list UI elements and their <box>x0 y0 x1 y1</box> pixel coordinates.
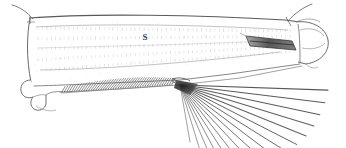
stipple-dot <box>169 36 170 37</box>
stipple-dot <box>85 68 86 69</box>
stipple-dot <box>235 80 236 81</box>
stipple-dot <box>53 68 54 69</box>
stipple-dot <box>120 25 121 26</box>
comb-seta-base <box>135 86 136 87</box>
stipple-dot <box>43 61 44 62</box>
stipple-dot <box>75 69 76 70</box>
stipple-dot <box>189 51 190 52</box>
stipple-dot <box>77 19 78 20</box>
stipple-dot <box>146 75 147 76</box>
stipple-dot <box>210 20 211 21</box>
stipple-dot <box>106 40 107 41</box>
stipple-dot <box>143 65 144 66</box>
stipple-dot <box>121 75 122 76</box>
comb-seta-base <box>132 86 133 87</box>
comb-seta-base <box>106 88 107 89</box>
stipple-dot <box>301 18 302 19</box>
stipple-dot <box>116 27 117 28</box>
stipple-dot <box>159 19 160 20</box>
stipple-dot <box>295 16 296 17</box>
stipple-dot <box>279 73 280 74</box>
stipple-dot <box>217 42 218 43</box>
stipple-dot <box>171 92 172 93</box>
stipple-dot <box>107 77 108 78</box>
stipple-dot <box>98 84 99 85</box>
stipple-dot <box>105 36 106 37</box>
stipple-dot <box>172 34 173 35</box>
stipple-dot <box>286 77 287 78</box>
stipple-dot <box>98 26 99 27</box>
stipple-dot <box>202 18 203 19</box>
stipple-dot <box>120 56 121 57</box>
stipple-dot <box>201 28 202 29</box>
stipple-dot <box>126 82 127 83</box>
comb-seta <box>155 78 160 85</box>
stipple-dot <box>63 75 64 76</box>
stipple-dot <box>217 50 218 51</box>
stipple-dot <box>280 78 281 79</box>
stipple-dot <box>186 18 187 19</box>
comb-seta-base <box>91 89 92 90</box>
stipple-dot <box>162 90 163 91</box>
stipple-dot <box>54 50 55 51</box>
stipple-dot <box>148 31 149 32</box>
stipple-dot <box>275 36 276 37</box>
stipple-dot <box>165 41 166 42</box>
stipple-dot <box>215 57 216 58</box>
stipple-dot <box>152 18 153 19</box>
stipple-dot <box>58 23 59 24</box>
stipple-dot <box>34 49 35 50</box>
stipple-dot <box>233 63 234 64</box>
stipple-dot <box>222 75 223 76</box>
stipple-dot <box>45 41 46 42</box>
proximal-end-wall <box>28 18 32 82</box>
stipple-dot <box>225 37 226 38</box>
stipple-dot <box>147 90 148 91</box>
stipple-dot <box>299 73 300 74</box>
stipple-dot <box>184 72 185 73</box>
stipple-dot <box>155 65 156 66</box>
stipple-dot <box>195 48 196 49</box>
comb-seta-base <box>79 90 80 91</box>
stipple-dot <box>48 85 49 86</box>
stipple-dot <box>52 59 53 60</box>
stipple-dot <box>159 43 160 44</box>
stipple-dot <box>29 45 30 46</box>
comb-seta-base <box>81 90 82 91</box>
segment-label: S <box>142 32 147 42</box>
stipple-dot <box>134 33 135 34</box>
stipple-dot <box>221 41 222 42</box>
stipple-dot <box>153 55 154 56</box>
stipple-dot <box>37 71 38 72</box>
stipple-dot <box>135 45 136 46</box>
bristle <box>180 85 297 144</box>
stipple-dot <box>272 50 273 51</box>
stipple-dot <box>190 29 191 30</box>
stipple-dot <box>132 53 133 54</box>
stipple-dot <box>229 67 230 68</box>
stipple-dot <box>49 78 50 79</box>
stipple-dot <box>164 34 165 35</box>
stipple-dot <box>229 52 230 53</box>
stipple-dot <box>226 33 227 34</box>
stipple-dot <box>159 23 160 24</box>
stipple-dot <box>284 38 285 39</box>
stipple-dot <box>258 51 259 52</box>
stipple-dot <box>109 91 110 92</box>
stipple-dot <box>142 77 143 78</box>
comb-seta-base <box>169 84 170 85</box>
stipple-dot <box>188 26 189 27</box>
stipple-dot <box>149 35 150 36</box>
stipple-dot <box>82 77 83 78</box>
stipple-dot <box>50 55 51 56</box>
stipple-dot <box>62 89 63 90</box>
stipple-dot <box>195 64 196 65</box>
stipple-dot <box>193 60 194 61</box>
stipple-dot <box>210 51 211 52</box>
stipple-dot <box>60 57 61 58</box>
stipple-dot <box>161 33 162 34</box>
stipple-dot <box>81 26 82 27</box>
comb-seta-base <box>110 88 111 89</box>
stipple-dot <box>181 41 182 42</box>
stipple-dot <box>55 26 56 27</box>
